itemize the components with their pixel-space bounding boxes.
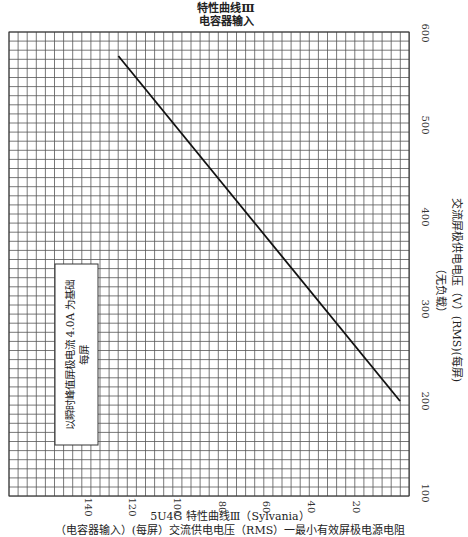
y-tick-label: 600 xyxy=(420,23,431,42)
y-axis-label-note: （无负载） xyxy=(434,180,450,400)
y-axis-label: 交流屏极供电电压（V）(RMS)(每屏) （无负载） xyxy=(434,180,466,400)
annotation-line-1: 以瞬时峰值屏极电流 4.0A 为基础 xyxy=(63,264,77,445)
x-axis-label: （电容器输入）(每屏）交流供电电压（RMS）一最小有效屏极电源电阻 xyxy=(0,524,464,537)
y-tick-label: 400 xyxy=(420,207,431,226)
y-tick-label: 100 xyxy=(420,483,431,502)
y-axis-label-main: 交流屏极供电电压（V）(RMS)(每屏) xyxy=(450,180,466,400)
annotation-line-2: 每屏 xyxy=(77,264,91,445)
series-line-capacitor-input xyxy=(118,56,400,401)
y-tick-label: 300 xyxy=(420,299,431,318)
y-tick-label: 500 xyxy=(420,115,431,134)
caption-title: 5U4G 特性曲线Ⅲ（Sylvania） xyxy=(0,510,464,523)
annotation-text: 以瞬时峰值屏极电流 4.0A 为基础 每屏 xyxy=(63,264,91,445)
y-tick-label: 200 xyxy=(420,391,431,410)
